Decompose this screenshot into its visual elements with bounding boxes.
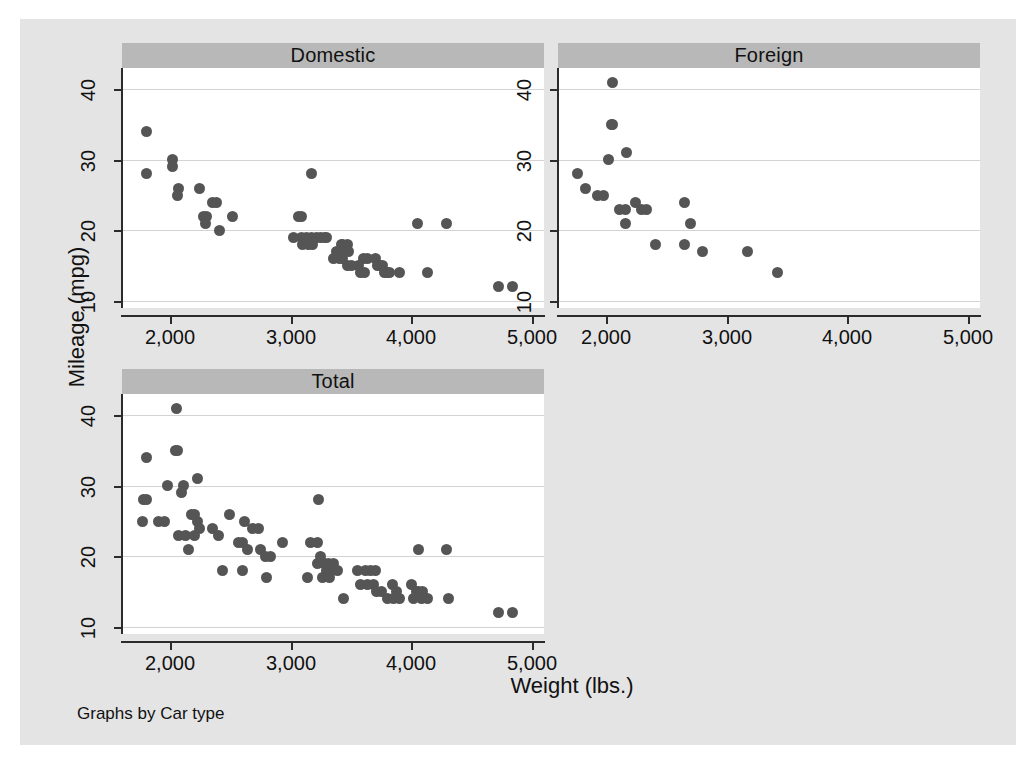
y-tick-label-30: 30 xyxy=(77,465,99,509)
x-tick-label-3,000: 3,000 xyxy=(251,326,331,349)
panel-foreign: Foreign 102030402,0003,0004,0005,000 xyxy=(558,43,980,308)
scatter-point xyxy=(162,480,173,491)
x-tick-label-4,000: 4,000 xyxy=(371,326,451,349)
x-axis-line xyxy=(121,641,545,643)
y-tick-10 xyxy=(550,301,557,303)
scatter-point xyxy=(598,190,609,201)
scatter-point xyxy=(679,239,690,250)
scatter-point xyxy=(413,544,424,555)
x-tick-3,000 xyxy=(291,317,293,324)
scatter-point xyxy=(697,246,708,257)
scatter-point xyxy=(443,593,454,604)
panel-domestic: Domestic 102030402,0003,0004,0005,000 xyxy=(122,43,544,308)
scatter-point xyxy=(580,183,591,194)
y-tick-label-40: 40 xyxy=(77,68,99,112)
y-tick-10 xyxy=(114,301,121,303)
y-tick-label-20: 20 xyxy=(513,209,535,253)
scatter-point xyxy=(224,509,235,520)
gridline-y-40 xyxy=(122,415,544,416)
y-tick-40 xyxy=(114,415,121,417)
scatter-point xyxy=(194,183,205,194)
scatter-point xyxy=(137,516,148,527)
gridline-y-30 xyxy=(558,160,980,161)
scatter-point xyxy=(370,565,381,576)
scatter-point xyxy=(141,452,152,463)
scatter-point xyxy=(422,593,433,604)
graph-canvas: Domestic 102030402,0003,0004,0005,000 Fo… xyxy=(20,19,1016,745)
scatter-point xyxy=(641,204,652,215)
scatter-point xyxy=(493,281,504,292)
scatter-point xyxy=(620,204,631,215)
footer-note: Graphs by Car type xyxy=(77,704,224,724)
y-tick-label-10: 10 xyxy=(513,280,535,324)
scatter-point xyxy=(213,530,224,541)
scatter-point xyxy=(242,544,253,555)
x-tick-label-2,000: 2,000 xyxy=(130,326,210,349)
y-axis-line xyxy=(121,394,123,634)
scatter-point xyxy=(172,190,183,201)
x-tick-4,000 xyxy=(411,643,413,650)
x-tick-4,000 xyxy=(847,317,849,324)
gridline-y-40 xyxy=(122,89,544,90)
scatter-point xyxy=(620,218,631,229)
y-tick-20 xyxy=(550,230,557,232)
scatter-point xyxy=(313,494,324,505)
scatter-point xyxy=(321,232,332,243)
scatter-point xyxy=(189,530,200,541)
scatter-point xyxy=(171,403,182,414)
x-tick-label-5,000: 5,000 xyxy=(492,652,572,675)
x-tick-label-5,000: 5,000 xyxy=(492,326,572,349)
gridline-y-20 xyxy=(122,556,544,557)
y-tick-30 xyxy=(114,160,121,162)
scatter-point xyxy=(742,246,753,257)
gridline-y-30 xyxy=(122,160,544,161)
x-tick-label-4,000: 4,000 xyxy=(371,652,451,675)
scatter-point xyxy=(261,572,272,583)
scatter-point xyxy=(277,537,288,548)
scatter-point xyxy=(394,267,405,278)
scatter-point xyxy=(312,537,323,548)
scatter-point xyxy=(141,168,152,179)
scatter-point xyxy=(607,77,618,88)
x-tick-4,000 xyxy=(411,317,413,324)
x-tick-3,000 xyxy=(727,317,729,324)
y-tick-20 xyxy=(114,556,121,558)
scatter-point xyxy=(296,211,307,222)
plot-area-foreign xyxy=(558,68,980,308)
scatter-point xyxy=(650,239,661,250)
panel-title-domestic: Domestic xyxy=(122,43,544,68)
scatter-point xyxy=(172,445,183,456)
x-tick-label-2,000: 2,000 xyxy=(566,326,646,349)
scatter-point xyxy=(141,126,152,137)
scatter-point xyxy=(572,168,583,179)
scatter-point xyxy=(338,593,349,604)
scatter-point xyxy=(685,218,696,229)
y-tick-label-30: 30 xyxy=(513,139,535,183)
scatter-point xyxy=(621,147,632,158)
scatter-point xyxy=(237,565,248,576)
gridline-y-10 xyxy=(122,627,544,628)
panel-title-total: Total xyxy=(122,369,544,394)
y-tick-30 xyxy=(114,486,121,488)
scatter-point xyxy=(603,154,614,165)
scatter-point xyxy=(200,218,211,229)
scatter-point xyxy=(167,161,178,172)
panel-title-foreign: Foreign xyxy=(558,43,980,68)
x-tick-label-3,000: 3,000 xyxy=(251,652,331,675)
scatter-point xyxy=(176,487,187,498)
scatter-point xyxy=(441,544,452,555)
scatter-point xyxy=(324,572,335,583)
y-tick-40 xyxy=(114,89,121,91)
scatter-point xyxy=(441,218,452,229)
y-axis-title: Mileage (mpg) xyxy=(64,202,90,432)
y-tick-label-40: 40 xyxy=(513,68,535,112)
scatter-point xyxy=(359,267,370,278)
scatter-point xyxy=(211,197,222,208)
x-tick-2,000 xyxy=(606,317,608,324)
x-tick-5,000 xyxy=(968,317,970,324)
scatter-point xyxy=(253,523,264,534)
y-tick-20 xyxy=(114,230,121,232)
y-tick-30 xyxy=(550,160,557,162)
x-axis-title: Weight (lbs.) xyxy=(412,673,732,699)
x-tick-3,000 xyxy=(291,643,293,650)
